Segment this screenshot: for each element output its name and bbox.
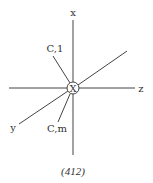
- y-axis-line-upper: [78, 51, 127, 85]
- axes-diagram: X x z y C,1 C,m (412): [0, 0, 153, 183]
- x-axis-label: x: [70, 7, 76, 18]
- cm-label: C,m: [47, 123, 67, 134]
- center-symbol: X: [69, 83, 77, 94]
- c1-ray: [53, 56, 70, 83]
- z-axis-label: z: [138, 83, 143, 94]
- cm-ray: [58, 94, 70, 122]
- figure-caption: (412): [61, 165, 85, 178]
- y-axis-line: [19, 91, 68, 124]
- c1-label: C,1: [47, 43, 64, 54]
- y-axis-label: y: [9, 122, 16, 133]
